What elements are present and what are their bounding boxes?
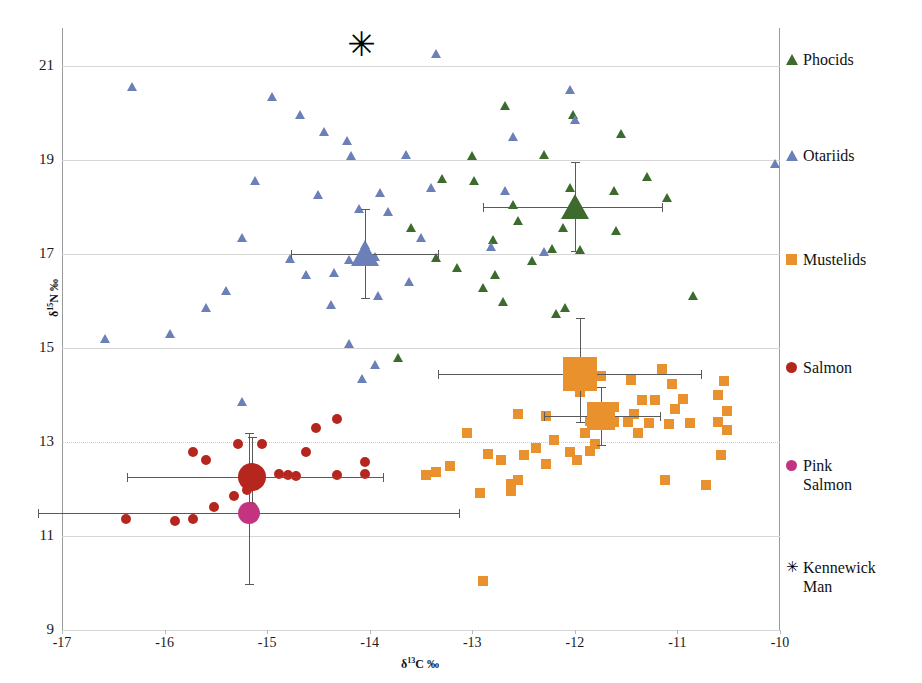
datapoint-otariids-12 bbox=[250, 176, 260, 185]
phocids-mean-xerror-bar bbox=[483, 207, 663, 208]
legend-item-mustelids[interactable]: Mustelids bbox=[786, 250, 866, 269]
datapoint-otariids-4 bbox=[319, 127, 329, 136]
y-tick-label-15: 15 bbox=[10, 340, 54, 355]
datapoint-mustelids-45 bbox=[445, 461, 455, 471]
x-tick-mark--11 bbox=[677, 630, 678, 634]
datapoint-salmon-2 bbox=[311, 423, 321, 433]
legend-label: Pink Salmon bbox=[803, 456, 852, 494]
datapoint-salmon-1 bbox=[257, 439, 267, 449]
x-tick-mark--14 bbox=[370, 630, 371, 634]
datapoint-phocids-19 bbox=[490, 270, 500, 279]
pink-salmon-mean-yerror-bar bbox=[249, 433, 250, 584]
legend-label: Kennewick Man bbox=[803, 558, 876, 596]
datapoint-mustelids-37 bbox=[496, 455, 506, 465]
datapoint-mustelids-0 bbox=[657, 364, 667, 374]
y-axis-title-text: δ15N ‰ bbox=[47, 279, 61, 317]
gridline-y-11 bbox=[62, 536, 780, 537]
x-tick-mark--17 bbox=[62, 630, 63, 634]
gridline-y-9 bbox=[62, 630, 780, 631]
datapoint-phocids-7 bbox=[609, 186, 619, 195]
datapoint-salmon-4 bbox=[301, 447, 311, 457]
mustelids-mean-xerror-cap-left bbox=[544, 412, 545, 421]
gridline-y-19 bbox=[62, 160, 780, 161]
mustelids-mean-yerror-bar bbox=[601, 387, 602, 445]
x-tick-label--15: -15 bbox=[244, 636, 290, 650]
datapoint-otariids-3 bbox=[295, 110, 305, 119]
datapoint-otariids-16 bbox=[500, 186, 510, 195]
datapoint-salmon-14 bbox=[242, 485, 252, 495]
legend-item-kennewick-man[interactable]: ✳Kennewick Man bbox=[786, 558, 876, 596]
datapoint-otariids-25 bbox=[404, 277, 414, 286]
datapoint-otariids-0 bbox=[127, 82, 137, 91]
datapoint-mustelids-4 bbox=[719, 376, 729, 386]
datapoint-salmon-18 bbox=[170, 516, 180, 526]
phocids-mean-xerror-cap-right bbox=[662, 203, 663, 212]
legend-item-phocids[interactable]: Phocids bbox=[786, 50, 854, 69]
legend-item-pink-salmon[interactable]: Pink Salmon bbox=[786, 456, 852, 494]
datapoint-otariids-15 bbox=[426, 183, 436, 192]
datapoint-mustelids-10 bbox=[670, 404, 680, 414]
legend-item-otariids[interactable]: Otariids bbox=[786, 146, 855, 165]
datapoint-mustelids-17 bbox=[609, 417, 619, 427]
x-tick-label--17: -17 bbox=[39, 636, 85, 650]
y-tick-label-17: 17 bbox=[10, 246, 54, 261]
datapoint-mustelids-20 bbox=[664, 419, 674, 429]
datapoint-phocids-16 bbox=[527, 256, 537, 265]
datapoint-mustelids-44 bbox=[421, 470, 431, 480]
datapoint-mustelids-25 bbox=[580, 428, 590, 438]
salmon-mean-yerror-bar bbox=[252, 437, 253, 520]
datapoint-mustelids-29 bbox=[531, 443, 541, 453]
legend-label: Mustelids bbox=[803, 250, 866, 269]
datapoint-otariids-31 bbox=[100, 334, 110, 343]
datapoint-mustelids-24 bbox=[633, 428, 643, 438]
datapoint-phocids-26 bbox=[393, 353, 403, 362]
datapoint-mustelids-30 bbox=[565, 447, 575, 457]
legend-item-salmon[interactable]: Salmon bbox=[786, 358, 852, 377]
mustelids-mean2-xerror-cap-right bbox=[701, 370, 702, 379]
datapoint-salmon-5 bbox=[188, 447, 198, 457]
datapoint-phocids-22 bbox=[560, 303, 570, 312]
datapoint-mustelids-35 bbox=[462, 428, 472, 438]
pink-salmon-mean-xerror-cap-right bbox=[459, 509, 460, 518]
datapoint-mustelids-41 bbox=[506, 486, 516, 496]
legend-label: Otariids bbox=[803, 146, 855, 165]
salmon-mean-xerror-cap-right bbox=[383, 473, 384, 482]
datapoint-phocids-11 bbox=[558, 223, 568, 232]
datapoint-otariids-27 bbox=[221, 286, 231, 295]
datapoint-mustelids-23 bbox=[722, 425, 732, 435]
gridline-y-13 bbox=[62, 442, 780, 443]
datapoint-phocids-18 bbox=[452, 263, 462, 272]
x-tick-label--10: -10 bbox=[757, 636, 803, 650]
y-tick-label-13: 13 bbox=[10, 434, 54, 449]
datapoint-mustelids-2 bbox=[626, 375, 636, 385]
datapoint-mustelids-34 bbox=[716, 450, 726, 460]
mustelids-mean2-yerror-cap-bottom bbox=[576, 422, 585, 423]
datapoint-mustelids-32 bbox=[572, 455, 582, 465]
mustelids-mean-xerror-bar bbox=[544, 416, 660, 417]
x-tick-label--16: -16 bbox=[142, 636, 188, 650]
datapoint-mustelids-9 bbox=[678, 394, 688, 404]
datapoint-phocids-23 bbox=[551, 309, 561, 318]
datapoint-mustelids-21 bbox=[685, 418, 695, 428]
datapoint-otariids-13 bbox=[313, 190, 323, 199]
datapoint-salmon-0 bbox=[233, 439, 243, 449]
datapoint-phocids-0 bbox=[500, 101, 510, 110]
otariids-mean-yerror-cap-top bbox=[361, 209, 370, 210]
x-tick-mark--12 bbox=[575, 630, 576, 634]
datapoint-otariids-37 bbox=[486, 242, 496, 251]
datapoint-mustelids-33 bbox=[541, 459, 551, 469]
pink-salmon-mean-xerror-cap-left bbox=[38, 509, 39, 518]
x-tick-label--11: -11 bbox=[654, 636, 700, 650]
x-tick-mark--13 bbox=[472, 630, 473, 634]
legend-square-icon bbox=[786, 254, 798, 266]
datapoint-otariids-9 bbox=[565, 85, 575, 94]
datapoint-otariids-19 bbox=[237, 233, 247, 242]
datapoint-mustelids-27 bbox=[585, 446, 595, 456]
phocids-mean-xerror-cap-left bbox=[483, 203, 484, 212]
legend-circle-icon bbox=[786, 362, 798, 374]
datapoint-mustelids-36 bbox=[483, 449, 493, 459]
datapoint-mustelids-7 bbox=[637, 395, 647, 405]
legend-label: Salmon bbox=[803, 358, 852, 377]
otariids-mean-xerror-cap-left bbox=[291, 250, 292, 259]
datapoint-phocids-2 bbox=[616, 129, 626, 138]
